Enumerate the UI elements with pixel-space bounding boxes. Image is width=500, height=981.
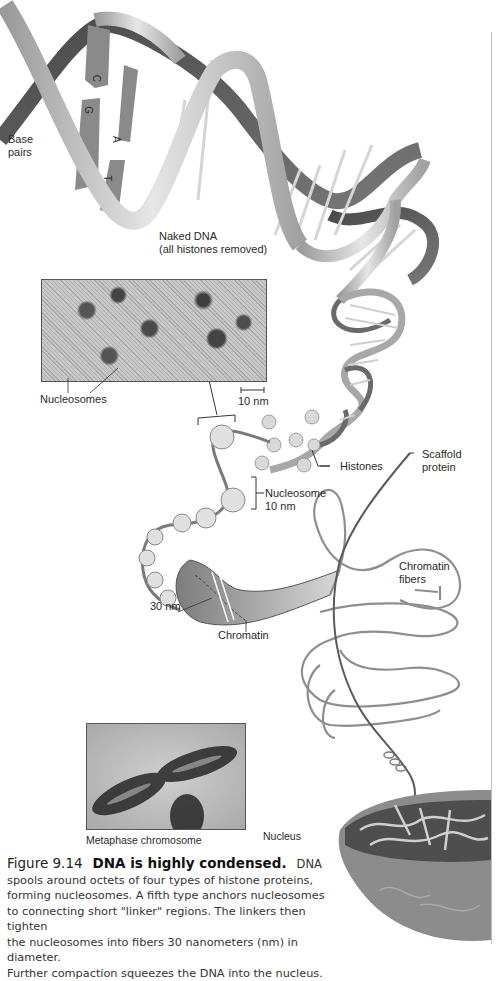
caption-line: the nucleosomes into fibers 30 nanometer…: [7, 935, 347, 966]
label-line: Chromatin: [399, 560, 450, 573]
caption-line: forming nucleosomes. A fifth type anchor…: [7, 888, 347, 904]
label-line: 10 nm: [265, 500, 326, 513]
label-naked-dna: Naked DNA (all histones removed): [159, 230, 267, 255]
base-letter-c: C: [89, 75, 102, 82]
label-nucleus: Nucleus: [263, 830, 301, 843]
page-edge-rule: [491, 32, 492, 944]
figure-headline: DNA is highly condensed.: [93, 855, 287, 871]
label-nucleosomes: Nucleosomes: [40, 393, 107, 406]
label-line: Nucleosome: [265, 487, 326, 500]
label-nucleosome-size: Nucleosome 10 nm: [265, 487, 326, 512]
label-scaffold-protein: Scaffold protein: [422, 448, 462, 473]
label-line: protein: [422, 461, 462, 474]
label-base-pairs: Base pairs: [8, 133, 33, 158]
figure-caption: Figure 9.14DNA is highly condensed.DNA s…: [7, 856, 347, 981]
label-chromatin: Chromatin: [218, 629, 269, 642]
label-fiber-size: 30 nm: [150, 600, 181, 613]
label-metaphase-chromosome: Metaphase chromosome: [86, 834, 202, 847]
caption-line: to connecting short "linker" regions. Th…: [7, 904, 347, 935]
label-chromatin-fibers: Chromatin fibers: [399, 560, 450, 585]
label-histones: Histones: [340, 460, 383, 473]
caption-title-line: Figure 9.14DNA is highly condensed.DNA: [7, 856, 347, 873]
metaphase-chromosome-micrograph: [86, 723, 246, 830]
label-scale-bar: 10 nm: [238, 395, 269, 408]
label-line: Base: [8, 133, 33, 146]
label-line: Naked DNA: [159, 230, 267, 243]
caption-line: Further compaction squeezes the DNA into…: [7, 966, 347, 981]
label-line: pairs: [8, 146, 33, 159]
caption-lead: DNA: [297, 857, 322, 871]
label-line: fibers: [399, 573, 450, 586]
label-line: Scaffold: [422, 448, 462, 461]
base-letter-a: A: [109, 136, 122, 143]
figure-number: Figure 9.14: [7, 855, 83, 871]
caption-line: spools around octets of four types of hi…: [7, 873, 347, 889]
label-line: (all histones removed): [159, 243, 267, 256]
base-letter-g: G: [82, 106, 95, 114]
base-letter-t: T: [101, 175, 114, 181]
